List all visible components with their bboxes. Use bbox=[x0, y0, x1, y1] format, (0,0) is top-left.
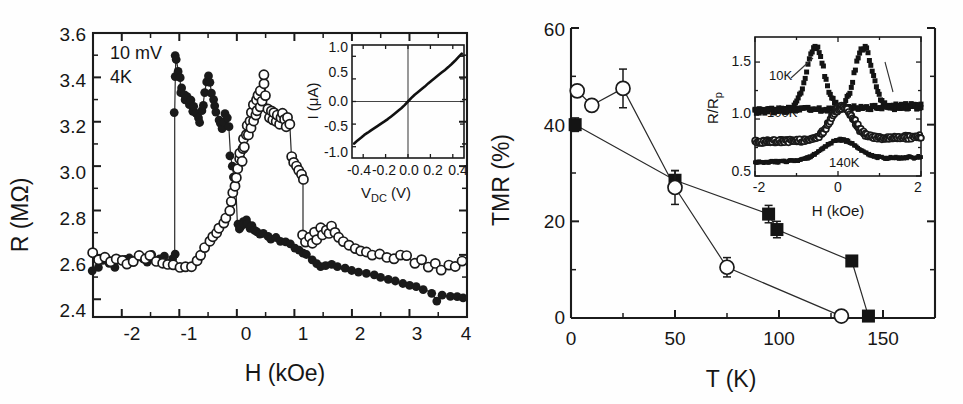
svg-text:2.8: 2.8 bbox=[60, 208, 86, 229]
inset-point-filled bbox=[824, 77, 829, 82]
data-point-open bbox=[834, 309, 848, 323]
inset-point-filled bbox=[847, 91, 852, 96]
inset-point-filled bbox=[856, 55, 861, 60]
data-point-open bbox=[240, 142, 249, 151]
svg-text:40: 40 bbox=[544, 115, 565, 136]
data-point-filled-square bbox=[762, 208, 775, 221]
data-point-open bbox=[285, 120, 294, 129]
curve-label-10k: 10K bbox=[769, 68, 792, 83]
inset-point-filled bbox=[919, 102, 924, 107]
data-point-open bbox=[232, 173, 241, 182]
data-point-open bbox=[720, 260, 734, 274]
inset-point-filled bbox=[874, 84, 879, 89]
left-x-axis-title: H (kOe) bbox=[245, 360, 326, 386]
inset-point-filled bbox=[864, 45, 869, 50]
data-point-open bbox=[570, 84, 584, 98]
data-point-filled bbox=[206, 78, 215, 87]
data-point-filled bbox=[171, 250, 180, 259]
svg-text:-0.4: -0.4 bbox=[347, 162, 371, 178]
inset-point-filled bbox=[815, 45, 820, 50]
svg-text:3.6: 3.6 bbox=[60, 24, 86, 45]
svg-text:0.0: 0.0 bbox=[399, 162, 419, 178]
data-point-open bbox=[261, 91, 270, 100]
data-point-filled bbox=[362, 269, 371, 278]
left-data-points bbox=[88, 51, 468, 305]
leader-line-10k-right bbox=[885, 62, 893, 92]
right-inset-x-tick-labels: -2 0 2 bbox=[753, 179, 922, 195]
right-axis-ticks bbox=[571, 28, 935, 318]
data-point-filled bbox=[333, 262, 342, 271]
leader-line-10k-left bbox=[791, 58, 813, 78]
svg-text:0: 0 bbox=[241, 323, 252, 344]
inset-point-filled bbox=[866, 50, 871, 55]
svg-text:3: 3 bbox=[412, 323, 423, 344]
data-point-filled bbox=[226, 151, 235, 160]
data-point-filled bbox=[438, 291, 447, 300]
svg-text:2.6: 2.6 bbox=[60, 254, 86, 275]
inset-point-filled bbox=[800, 86, 805, 91]
svg-text:1.0: 1.0 bbox=[732, 105, 752, 121]
left-inset-x-axis-title: VDC (V) bbox=[361, 184, 411, 204]
right-x-axis-title: T (K) bbox=[706, 366, 757, 392]
svg-text:4: 4 bbox=[461, 323, 472, 344]
data-point-filled-square bbox=[862, 310, 875, 323]
data-point-open bbox=[227, 197, 236, 206]
data-point-open bbox=[299, 175, 308, 184]
inset-point-filled bbox=[868, 63, 873, 68]
svg-text:R (MΩ): R (MΩ) bbox=[7, 178, 33, 253]
data-point-open bbox=[616, 81, 630, 95]
right-y-tick-labels: 60 40 20 0 bbox=[544, 19, 565, 328]
left-inset-y-axis-title: I (μA) bbox=[304, 83, 321, 120]
left-inset-x-tick-labels: -0.4 -0.2 0.0 0.2 0.4 bbox=[347, 162, 468, 178]
inset-point-filled bbox=[804, 70, 809, 75]
svg-text:-1.0: -1.0 bbox=[324, 144, 348, 160]
svg-text:0.5: 0.5 bbox=[732, 163, 752, 179]
data-point-open bbox=[585, 98, 599, 112]
svg-text:20: 20 bbox=[544, 211, 565, 232]
left-inset-y-tick-labels: 1.0 0.5 0.0 -0.5 -1.0 bbox=[324, 39, 348, 160]
right-inset-y-axis-title: R/Rp bbox=[704, 92, 724, 124]
right-inset-x-axis-title: H (kOe) bbox=[812, 202, 865, 219]
svg-text:150: 150 bbox=[867, 328, 899, 349]
svg-text:-2: -2 bbox=[753, 179, 766, 195]
inset-point-filled bbox=[877, 92, 882, 97]
svg-text:0: 0 bbox=[566, 328, 577, 349]
svg-text:0: 0 bbox=[834, 179, 842, 195]
data-point-filled bbox=[212, 108, 221, 117]
inset-point-filled bbox=[873, 78, 878, 83]
svg-text:1.5: 1.5 bbox=[732, 53, 752, 69]
inset-point-filled bbox=[871, 73, 876, 78]
svg-text:-0.2: -0.2 bbox=[372, 162, 396, 178]
inset-point-filled bbox=[801, 80, 806, 85]
right-series-line bbox=[575, 125, 868, 316]
svg-text:0.4: 0.4 bbox=[448, 162, 468, 178]
svg-text:3.4: 3.4 bbox=[60, 70, 87, 91]
inset-point-filled bbox=[803, 76, 808, 81]
right-panel: TMR (%) 60 40 20 0 0 50 100 150 T (K) bbox=[481, 0, 963, 404]
data-point-filled bbox=[195, 118, 204, 127]
data-point-open bbox=[238, 157, 247, 166]
svg-text:0.2: 0.2 bbox=[423, 162, 443, 178]
inset-point-filled bbox=[919, 155, 923, 159]
data-point-filled bbox=[223, 113, 232, 122]
svg-text:2: 2 bbox=[914, 179, 922, 195]
inset-point-filled bbox=[818, 54, 823, 59]
svg-text:-1: -1 bbox=[181, 323, 198, 344]
inset-point-filled bbox=[870, 69, 875, 74]
svg-text:0: 0 bbox=[554, 307, 565, 328]
inset-point-filled bbox=[825, 83, 830, 88]
data-point-filled bbox=[376, 273, 385, 282]
svg-text:-2: -2 bbox=[124, 323, 141, 344]
right-x-tick-labels: 0 50 100 150 bbox=[566, 328, 899, 349]
svg-text:0.0: 0.0 bbox=[329, 93, 349, 109]
data-point-filled-square bbox=[845, 254, 858, 267]
right-y-axis-title: TMR (%) bbox=[488, 134, 514, 226]
svg-text:50: 50 bbox=[664, 328, 685, 349]
curve-label-100k: 100K bbox=[767, 105, 798, 120]
left-panel-svg: R (MΩ) 3.6 3.4 3.2 3.0 2.8 2.6 2.4 -2 -1… bbox=[0, 0, 481, 404]
data-point-filled bbox=[225, 122, 234, 131]
data-point-filled-square bbox=[569, 118, 582, 131]
inset-point-filled bbox=[867, 58, 872, 63]
svg-text:3.0: 3.0 bbox=[60, 162, 86, 183]
inset-point-filled bbox=[821, 64, 826, 69]
